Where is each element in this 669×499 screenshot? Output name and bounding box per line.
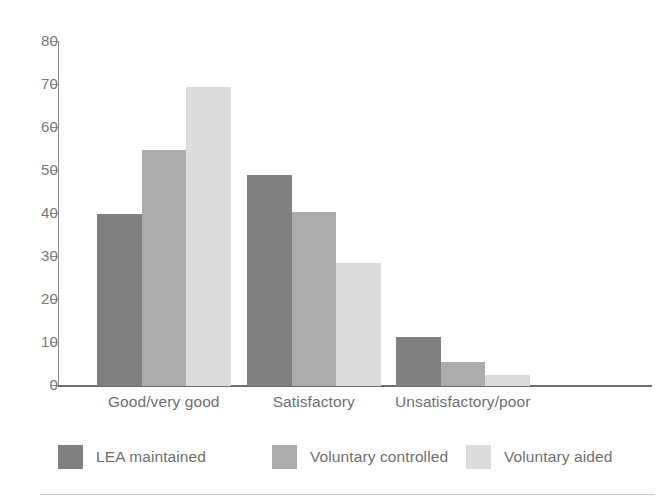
legend-label: LEA maintained — [96, 447, 206, 467]
y-tick: 0 — [0, 385, 58, 386]
y-tick: 20 — [0, 299, 58, 300]
bar — [97, 214, 142, 386]
legend-label: Voluntary controlled — [310, 447, 448, 467]
legend-swatch — [58, 445, 83, 469]
y-tick-label: 20 — [14, 291, 58, 306]
bar-chart: 01020304050607080 Good/very goodSatisfac… — [0, 0, 669, 499]
bar — [247, 175, 292, 386]
legend-item[interactable]: Voluntary controlled — [272, 443, 448, 471]
bar — [441, 362, 486, 386]
y-tick: 60 — [0, 127, 58, 128]
legend-swatch — [272, 445, 297, 469]
y-tick: 10 — [0, 342, 58, 343]
y-tick: 50 — [0, 170, 58, 171]
y-tick: 30 — [0, 256, 58, 257]
bar — [142, 150, 187, 387]
y-tick-label: 70 — [14, 76, 58, 91]
legend-label: Voluntary aided — [504, 447, 612, 467]
y-tick-label: 10 — [14, 334, 58, 349]
y-tick-label: 50 — [14, 162, 58, 177]
y-tick-label: 30 — [14, 248, 58, 263]
y-tick-label: 60 — [14, 119, 58, 134]
y-tick-label: 80 — [14, 33, 58, 48]
chart-legend: LEA maintainedVoluntary controlledVolunt… — [0, 443, 669, 473]
y-tick-label: 40 — [14, 205, 58, 220]
y-tick-label: 0 — [14, 377, 58, 392]
footer-divider — [40, 494, 655, 495]
legend-item[interactable]: Voluntary aided — [466, 443, 612, 471]
bar — [292, 212, 337, 386]
y-tick: 40 — [0, 213, 58, 214]
bar — [336, 263, 381, 386]
bar — [186, 87, 231, 386]
bar — [485, 375, 530, 386]
legend-item[interactable]: LEA maintained — [58, 443, 206, 471]
legend-swatch — [466, 445, 491, 469]
y-tick: 70 — [0, 84, 58, 85]
x-axis-label: Unsatisfactory/poor — [353, 392, 573, 412]
y-tick: 80 — [0, 41, 58, 42]
bar — [396, 337, 441, 386]
bars-layer — [58, 41, 652, 386]
